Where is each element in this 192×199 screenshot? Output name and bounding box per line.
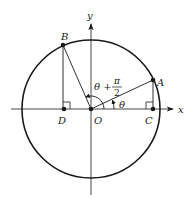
label-y: y (86, 10, 93, 21)
label-two: 2 (114, 88, 120, 98)
radius-OB (63, 45, 91, 109)
angle-arc-theta (113, 101, 115, 110)
label-theta: θ (119, 99, 125, 110)
label-D: D (57, 115, 66, 126)
point-O (89, 107, 94, 112)
point-C (151, 107, 156, 112)
point-D (62, 107, 67, 112)
label-A: A (156, 77, 164, 88)
point-A (151, 78, 156, 83)
label-pi: π (113, 76, 121, 86)
unit-circle-diagram: y x A B C D O θ θ + π 2 (0, 0, 192, 199)
label-x: x (178, 104, 184, 115)
label-theta-plus: θ + (94, 81, 112, 92)
point-B (61, 43, 66, 48)
label-B: B (60, 31, 68, 42)
label-C: C (145, 115, 153, 126)
label-O: O (94, 115, 102, 126)
diagram-svg: y x A B C D O θ θ + π 2 (0, 0, 192, 199)
